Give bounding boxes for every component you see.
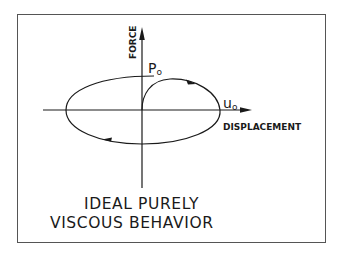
force-axis-label: FORCE — [128, 26, 138, 59]
caption-line-2: VISCOUS BEHAVIOR — [50, 214, 346, 232]
displacement-axis-label: DISPLACEMENT — [223, 122, 302, 132]
peak-displacement-label: uo — [223, 95, 238, 112]
displacement-axis-arrow-icon — [240, 107, 252, 113]
loop-direction-arrow-icon — [186, 80, 196, 85]
caption-line-1: IDEAL PURELY — [84, 195, 346, 213]
force-axis-arrow-icon — [139, 27, 145, 40]
peak-force-label: Po — [148, 60, 162, 77]
